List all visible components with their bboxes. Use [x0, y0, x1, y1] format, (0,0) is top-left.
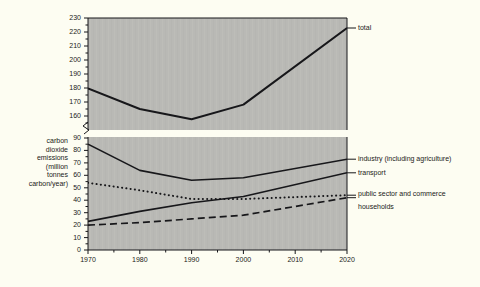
ytick-label-220: 220 — [55, 28, 81, 37]
ytick-label-80: 80 — [55, 146, 81, 155]
xtick-label-2020: 2020 — [332, 256, 362, 265]
xtick-label-2010: 2010 — [280, 256, 310, 265]
series-label-public-sector: public sector and commerce — [358, 190, 446, 199]
series-label-households: households — [358, 203, 394, 212]
xtick-label-1990: 1990 — [177, 256, 207, 265]
ytick-label-200: 200 — [55, 56, 81, 65]
ytick-label-180: 180 — [55, 84, 81, 93]
ytick-label-0: 0 — [55, 246, 81, 255]
ytick-label-230: 230 — [55, 14, 81, 23]
xtick-label-1980: 1980 — [125, 256, 155, 265]
ytick-label-20: 20 — [55, 221, 81, 230]
xtick-label-1970: 1970 — [73, 256, 103, 265]
ytick-label-40: 40 — [55, 196, 81, 205]
ytick-label-160: 160 — [55, 112, 81, 121]
upper-plot-area — [88, 18, 347, 130]
ytick-label-190: 190 — [55, 70, 81, 79]
ytick-label-10: 10 — [55, 234, 81, 243]
series-label-transport: transport — [358, 169, 386, 178]
ytick-label-170: 170 — [55, 98, 81, 107]
lower-plot-area — [88, 137, 347, 250]
ytick-label-70: 70 — [55, 159, 81, 168]
ytick-label-50: 50 — [55, 184, 81, 193]
series-label-total: total — [358, 24, 371, 33]
chart-figure: carbon dioxide emissions (million tonnes… — [0, 0, 480, 287]
xtick-label-2000: 2000 — [228, 256, 258, 265]
ytick-label-90: 90 — [55, 134, 81, 143]
series-label-industry: industry (including agriculture) — [358, 155, 451, 164]
ytick-label-60: 60 — [55, 171, 81, 180]
ytick-label-210: 210 — [55, 42, 81, 51]
ytick-label-30: 30 — [55, 209, 81, 218]
